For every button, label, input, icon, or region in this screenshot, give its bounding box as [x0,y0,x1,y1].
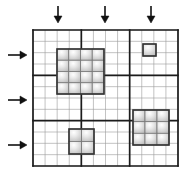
refined-block-2x2 [69,129,94,154]
refined-cell [82,129,95,142]
refined-cell [81,72,93,83]
refined-cell [81,83,93,94]
down-arrowhead [54,16,62,23]
right-arrowhead [20,96,27,104]
refined-cell [145,122,157,134]
down-arrow [101,6,109,23]
refined-cell [69,60,81,71]
right-arrow [8,141,27,149]
refined-cell [92,83,104,94]
refined-block-4x4 [57,49,104,94]
refined-cell [69,49,81,60]
refined-cell [157,133,169,145]
refined-block-3x3 [133,110,169,145]
refined-cell [145,110,157,122]
grid-diagram-svg [0,0,185,177]
refined-cell [82,142,95,155]
refined-cell [81,49,93,60]
refined-cell [69,142,82,155]
down-arrowhead [101,16,109,23]
refined-cell [92,72,104,83]
right-arrow [8,51,27,59]
refined-cell [69,129,82,142]
right-arrow [8,96,27,104]
amr-grid-diagram [0,0,185,177]
refined-cell [69,83,81,94]
down-arrowhead [147,16,155,23]
right-arrowhead [20,141,27,149]
refined-cell [57,83,69,94]
refined-cell [133,110,145,122]
refined-cell [145,133,157,145]
refined-cell [92,60,104,71]
refined-cell [157,110,169,122]
down-arrow [54,6,62,23]
refined-cell [57,49,69,60]
refined-cell [57,60,69,71]
refined-cell [157,122,169,134]
refined-cell [133,133,145,145]
right-arrowhead [20,51,27,59]
refined-cell [133,122,145,134]
down-arrow [147,6,155,23]
refined-block-1x1 [143,44,156,56]
refined-cell [81,60,93,71]
refined-cell [69,72,81,83]
refined-cell [143,44,156,56]
refined-cell [57,72,69,83]
refined-cell [92,49,104,60]
